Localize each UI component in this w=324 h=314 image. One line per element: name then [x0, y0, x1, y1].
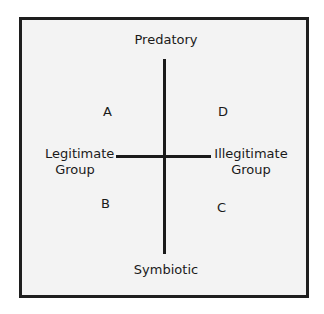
axis-label-left-line1: Legitimate — [45, 146, 105, 162]
axis-label-right-line1: Illegitimate — [214, 146, 288, 162]
quadrant-label-b: B — [101, 196, 110, 211]
quadrant-label-c: C — [217, 200, 226, 215]
horizontal-axis-line — [116, 155, 211, 158]
axis-label-top-text: Predatory — [135, 32, 198, 48]
quadrant-label-d: D — [218, 104, 228, 119]
axis-label-left-line2: Group — [45, 162, 105, 178]
axis-label-left: Legitimate Group — [45, 146, 105, 178]
quadrant-label-a: A — [103, 104, 112, 119]
axis-label-bottom-text: Symbiotic — [134, 262, 198, 278]
axis-label-right: Illegitimate Group — [214, 146, 288, 178]
axis-label-right-line2: Group — [214, 162, 288, 178]
